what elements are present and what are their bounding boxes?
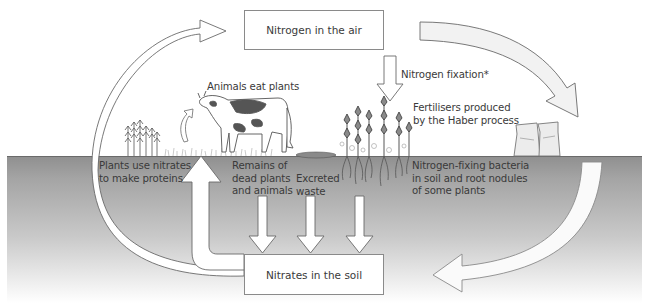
fertiliser-sacks-illustration <box>514 122 560 156</box>
node-label-air: Nitrogen in the air <box>266 24 362 36</box>
label-plants-use-nitrates: Plants use nitrates to make proteins <box>99 160 191 185</box>
cow-illustration <box>198 91 293 152</box>
label-fertilisers: Fertilisers produced by the Haber proces… <box>413 102 519 127</box>
node-nitrates-in-the-soil: Nitrates in the soil <box>244 254 384 295</box>
grass-illustration <box>165 148 272 156</box>
node-label-soil: Nitrates in the soil <box>266 269 362 281</box>
node-nitrogen-in-the-air: Nitrogen in the air <box>244 10 384 50</box>
label-nitrogen-fixing-bacteria: Nitrogen-fixing bacteria in soil and roo… <box>412 160 529 198</box>
label-excreted-waste: Excreted waste <box>296 173 340 198</box>
label-nitrogen-fixation: Nitrogen fixation* <box>401 69 489 82</box>
nitrogen-cycle-diagram: Nitrogen in the air Nitrates in the soil… <box>0 0 648 303</box>
arrow-nitrogen-fixation <box>377 56 403 101</box>
excreted-waste-illustration <box>296 152 336 158</box>
cereal-plants-illustration <box>125 120 160 156</box>
label-animals-eat-plants: Animals eat plants <box>207 81 299 94</box>
arrow-plants-to-animals <box>181 109 193 142</box>
label-remains: Remains of dead plants and animals <box>232 160 293 198</box>
